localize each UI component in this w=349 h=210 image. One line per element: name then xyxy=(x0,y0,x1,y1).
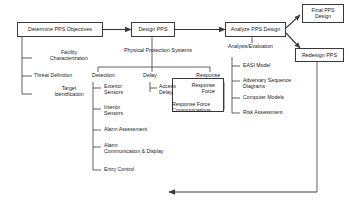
column-header-detection: Detection xyxy=(92,73,115,79)
detection-item-alarm-assessment: Alarm Assessment xyxy=(104,127,147,133)
node-design-pps[interactable]: Design PPS xyxy=(131,22,175,37)
arrow-analyze-to-final xyxy=(286,15,300,28)
node-final-label: Final PPS Design xyxy=(311,8,334,20)
node-final-pps-design[interactable]: Final PPS Design xyxy=(302,4,344,23)
column-header-response: Response xyxy=(196,73,220,79)
detection-item-interior-sensors: Interior Sensors xyxy=(104,105,123,117)
pps-design-process-diagram: Determine PPS Objectives Design PPS Anal… xyxy=(0,0,349,210)
detection-item-entry-control: Entry Control xyxy=(104,167,134,173)
caption-physical-protection-systems: Physical Protection Systems xyxy=(108,48,208,54)
response-item-response-force: Response Force xyxy=(176,83,215,95)
analysis-item-computer-models: Computer Models xyxy=(243,95,284,101)
objective-item-target-identification: Target Identification xyxy=(36,86,102,98)
detection-item-exterior-sensors: Exterior Sensors xyxy=(104,84,123,96)
node-determine-label: Determine PPS Objectives xyxy=(28,26,92,32)
node-redesign-label: Redesign PPS xyxy=(302,52,337,58)
arrow-analyze-to-redesign xyxy=(286,33,300,48)
column-header-delay: Delay xyxy=(143,73,157,79)
delay-item-access-delay: Access Delay xyxy=(159,84,176,96)
node-analyze-label: Analyze PPS Design xyxy=(231,26,281,32)
caption-analysis-evaluation: Analysis/Evaluation xyxy=(228,44,273,50)
response-item-response-force-communications: Response Force Communications xyxy=(172,102,215,114)
analysis-item-easi-model: EASI Model xyxy=(243,63,270,69)
objective-item-facility-characterization: Facility Characterization xyxy=(36,50,102,62)
analysis-item-risk-assessment: Risk Assessment xyxy=(243,110,283,116)
node-redesign-pps[interactable]: Redesign PPS xyxy=(295,48,344,62)
analysis-item-adversary-sequence-diagrams: Adversary Sequence Diagrams xyxy=(243,78,291,90)
node-analyze-pps-design[interactable]: Analyze PPS Design xyxy=(225,22,286,37)
node-determine-pps-objectives[interactable]: Determine PPS Objectives xyxy=(17,22,103,37)
node-design-label: Design PPS xyxy=(138,26,167,32)
detection-item-alarm-communication-display: Alarm Communication & Display xyxy=(104,143,163,155)
